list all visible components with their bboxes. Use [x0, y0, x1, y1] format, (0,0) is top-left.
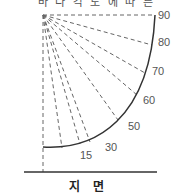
angle-rays — [43, 15, 155, 172]
label-30: 30 — [105, 141, 117, 153]
ground-label: 지 면 — [0, 177, 177, 194]
label-90: 90 — [158, 9, 170, 21]
label-50: 50 — [128, 120, 140, 132]
label-80: 80 — [158, 36, 170, 48]
ray-30 — [43, 15, 90, 142]
ray-extra — [43, 15, 62, 148]
ray-80 — [43, 15, 152, 45]
ray-70 — [43, 15, 145, 73]
ray-15 — [43, 15, 80, 144]
angle-diagram: 90 80 70 60 50 30 15 — [0, 0, 177, 195]
label-70: 70 — [152, 65, 164, 77]
label-60: 60 — [143, 94, 155, 106]
label-15: 15 — [80, 149, 92, 161]
ray-50 — [43, 15, 118, 120]
ray-60 — [43, 15, 137, 95]
